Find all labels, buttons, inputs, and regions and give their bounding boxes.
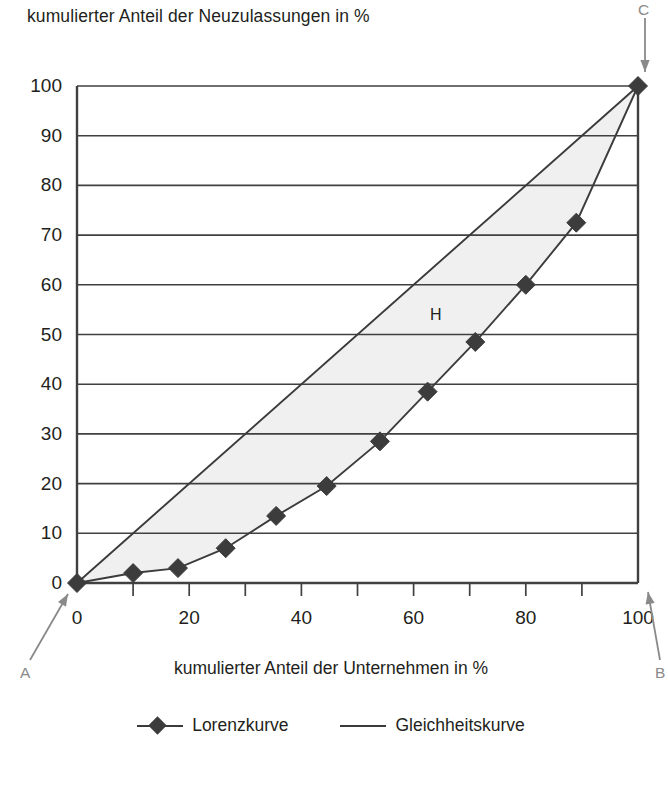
region-label-H: H [430,307,442,323]
legend-line [340,725,386,727]
legend-label: Gleichheitskurve [395,715,524,736]
legend-label: Lorenzkurve [192,715,288,736]
chart-legend: LorenzkurveGleichheitskurve [0,715,662,736]
legend-diamond-marker [148,716,166,734]
legend-line-icon [340,717,386,735]
legend-entry[interactable]: Gleichheitskurve [340,715,524,736]
corner-label-b: B [655,665,665,681]
corner-label-a: A [20,665,30,681]
legend-diamond-line-icon [137,717,183,735]
gridlines [77,86,638,533]
axis-tickmarks [133,583,582,596]
corner-label-c: C [638,2,649,18]
legend-entry[interactable]: Lorenzkurve [137,715,288,736]
